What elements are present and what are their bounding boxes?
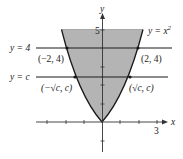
y-tick-label-5: 5 (95, 26, 100, 36)
point-label-2-4: (2, 4) (141, 54, 162, 65)
point-sqrtc-c (128, 75, 131, 78)
y-axis-label: y (99, 4, 105, 14)
point-neg2-4 (65, 46, 68, 49)
x-axis-arrow-icon (162, 120, 168, 125)
point-label-sqrtc-c: (√c, c) (129, 83, 154, 94)
x-tick-label-3: 3 (154, 126, 159, 136)
point-label-neg2-4: (−2, 4) (38, 54, 64, 65)
parabola-diagram: y 5 x 3 y = x2 y = 4 y = c (−2, 4) (2, 4… (0, 0, 183, 159)
curve-label: y = x2 (147, 24, 172, 36)
line-label-y-4: y = 4 (9, 43, 30, 53)
line-label-y-c: y = c (9, 72, 30, 82)
point-neg-sqrtc-c (73, 75, 76, 78)
point-2-4 (136, 46, 139, 49)
x-axis-label: x (170, 117, 176, 127)
point-label-neg-sqrtc-c: (−√c, c) (41, 83, 72, 94)
